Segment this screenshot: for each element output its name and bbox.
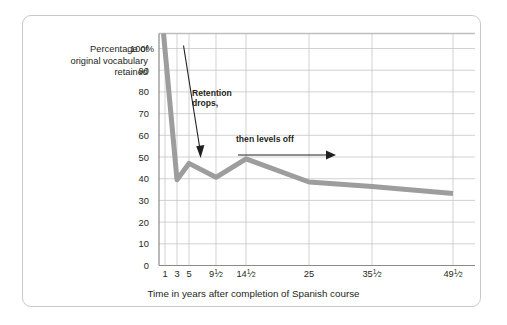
x-tick-label-35-5-text: 351⁄2 (362, 269, 381, 279)
horizontal-gridlines (159, 49, 475, 244)
x-tick-label-14-5: 141⁄2 (231, 269, 261, 279)
x-tick-label-9-5-text: 91⁄2 (209, 269, 223, 279)
x-tick-label-35-5: 351⁄2 (357, 269, 387, 279)
annotation-retention-drops-line-1: Retention (192, 88, 232, 98)
x-tick-label-49-5: 491⁄2 (438, 269, 468, 279)
x-axis-title: Time in years after completion of Spanis… (0, 288, 507, 299)
x-tick-label-49-5-text: 491⁄2 (443, 269, 462, 279)
vertical-gridlines (165, 34, 453, 266)
figure-container: Percentage of original vocabulary retain… (0, 0, 507, 325)
levels-off-arrow (238, 151, 336, 160)
x-tick-label-9-5: 91⁄2 (202, 269, 230, 279)
x-tick-label-25: 25 (299, 269, 319, 279)
x-tick-label-14-5-text: 141⁄2 (236, 269, 255, 279)
x-tick-label-5: 5 (179, 269, 199, 279)
annotation-levels-off: then levels off (236, 134, 294, 144)
annotation-retention-drops: Retention drops, (192, 88, 232, 108)
annotation-retention-drops-line-2: drops, (192, 98, 232, 108)
